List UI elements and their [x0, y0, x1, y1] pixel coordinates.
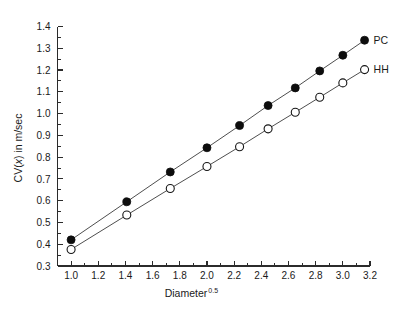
series-labels: PCHH: [374, 34, 389, 75]
data-point-hh: [316, 93, 324, 101]
data-point-pc: [339, 51, 347, 59]
x-tick-label: 3.0: [336, 270, 350, 281]
data-point-hh: [361, 66, 369, 74]
y-tick-label: 1.2: [37, 65, 51, 76]
y-tick-label: 1.3: [37, 43, 51, 54]
data-series: [67, 36, 368, 253]
data-point-hh: [123, 211, 131, 219]
y-tick-label: 1.1: [37, 86, 51, 97]
svg-text:CV(: CV(: [12, 164, 24, 183]
x-tick-label: 1.6: [146, 270, 160, 281]
svg-text:Diameter: Diameter: [165, 287, 208, 299]
y-tick-label: 0.7: [37, 174, 51, 185]
x-tick-labels: 1.01.21.41.61.82.02.22.42.62.83.03.2: [64, 270, 377, 281]
series-pc: [67, 36, 368, 244]
x-tick-label: 2.8: [309, 270, 323, 281]
axes: [58, 27, 371, 267]
chart-plot-area: 1.01.21.41.61.82.02.22.42.62.83.03.2 0.3…: [0, 0, 407, 314]
chart-figure: 1.01.21.41.61.82.02.22.42.62.83.03.2 0.3…: [0, 0, 407, 314]
y-tick-labels: 0.30.40.50.60.70.80.91.01.11.21.31.4: [37, 21, 51, 272]
y-tick-label: 0.9: [37, 130, 51, 141]
y-tick-label: 0.4: [37, 239, 51, 250]
data-point-hh: [264, 125, 272, 133]
x-tick-label: 2.2: [227, 270, 241, 281]
data-point-pc: [291, 84, 299, 92]
y-tick-label: 0.6: [37, 195, 51, 206]
x-tick-label: 2.0: [200, 270, 214, 281]
series-label-pc: PC: [374, 34, 389, 46]
data-point-pc: [264, 102, 272, 110]
series-hh: [67, 66, 368, 254]
data-point-hh: [339, 79, 347, 87]
svg-text:) in m/sec: ) in m/sec: [12, 114, 24, 160]
y-tick-label: 0.5: [37, 217, 51, 228]
axis-ticks: [58, 27, 371, 267]
data-point-pc: [123, 198, 131, 206]
data-point-hh: [67, 245, 75, 253]
x-tick-label: 1.4: [118, 270, 132, 281]
x-tick-label: 1.2: [91, 270, 105, 281]
series-label-hh: HH: [374, 63, 389, 75]
data-point-pc: [166, 168, 174, 176]
y-tick-label: 0.3: [37, 261, 51, 272]
svg-text:0.5: 0.5: [208, 287, 218, 294]
x-tick-label: 3.2: [363, 270, 377, 281]
data-point-pc: [316, 67, 324, 75]
data-point-hh: [291, 108, 299, 116]
x-tick-label: 1.8: [173, 270, 187, 281]
y-tick-label: 1.0: [37, 108, 51, 119]
data-point-hh: [203, 163, 211, 171]
data-point-pc: [203, 144, 211, 152]
x-tick-label: 1.0: [64, 270, 78, 281]
x-tick-label: 2.4: [254, 270, 268, 281]
data-point-pc: [236, 122, 244, 130]
data-point-pc: [67, 236, 75, 244]
data-point-pc: [361, 36, 369, 44]
data-point-hh: [236, 143, 244, 151]
y-axis-title: CV( x ) in m/sec: [12, 114, 24, 183]
data-point-hh: [166, 184, 174, 192]
x-axis-title: Diameter 0.5: [165, 287, 218, 300]
y-tick-label: 0.8: [37, 152, 51, 163]
x-tick-label: 2.6: [282, 270, 296, 281]
y-tick-label: 1.4: [37, 21, 51, 32]
